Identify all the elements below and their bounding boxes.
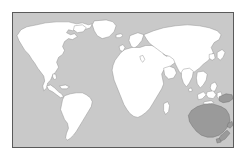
figure-root — [0, 0, 246, 159]
world-map-frame — [12, 12, 234, 148]
region-sri-lanka — [188, 88, 192, 92]
world-map-canvas — [13, 13, 233, 147]
